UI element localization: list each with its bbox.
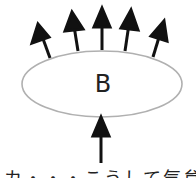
- arrow-icon: [32, 24, 50, 58]
- incoming-arrow: [93, 117, 109, 163]
- caption-text: カ・・・こうして気怠い虫激: [0, 168, 196, 178]
- arrow-icon: [65, 12, 83, 51]
- arrow-icon: [94, 8, 110, 50]
- body-label: B: [92, 70, 114, 98]
- caption-partial: カ・・・こうして気怠い虫激: [0, 168, 196, 178]
- arrow-icon: [151, 21, 167, 57]
- arrow-icon: [121, 10, 138, 51]
